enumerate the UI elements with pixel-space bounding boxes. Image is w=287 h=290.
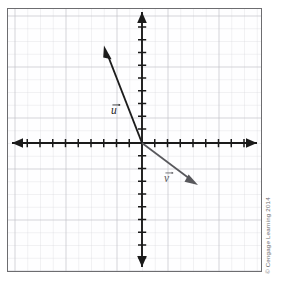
vector-v-arrow (142, 143, 198, 185)
copyright-notice: © Cengage Learning 2014 (262, 170, 276, 280)
vector-u-label-text: u (111, 104, 117, 116)
coordinate-plane: u v (7, 8, 262, 272)
vector-u-arrow (103, 46, 142, 144)
vector-v-label: v (164, 172, 169, 184)
copyright-text: © Cengage Learning 2014 (264, 197, 271, 274)
vector-figure: u v © Cengage Learning 2014 (0, 0, 287, 290)
vector-arrows (8, 9, 261, 271)
vector-v-label-text: v (164, 172, 169, 184)
vector-u-label: u (111, 104, 117, 116)
